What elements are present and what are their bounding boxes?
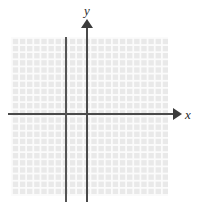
y-axis-arrow-icon bbox=[81, 19, 93, 28]
x-axis-line bbox=[8, 113, 175, 115]
y-axis-line bbox=[86, 25, 88, 202]
coordinate-plane-figure: x y bbox=[0, 0, 201, 212]
x-axis-arrow-icon bbox=[173, 108, 182, 120]
plotted-vertical-line bbox=[65, 37, 67, 202]
grid-plane bbox=[11, 37, 168, 196]
y-axis-label: y bbox=[84, 4, 90, 17]
x-axis-label: x bbox=[185, 108, 191, 121]
